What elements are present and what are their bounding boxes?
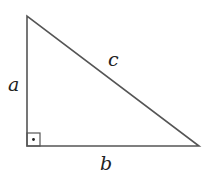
side-label-a: a bbox=[8, 73, 19, 95]
side-label-c: c bbox=[108, 48, 119, 70]
side-label-b: b bbox=[100, 152, 112, 174]
right-triangle-diagram: a c b bbox=[0, 0, 211, 182]
right-angle-dot bbox=[32, 138, 35, 141]
triangle bbox=[27, 16, 199, 146]
